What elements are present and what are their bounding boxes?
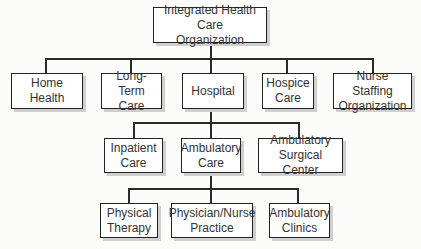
connector-ambulatory-care: [210, 122, 212, 138]
connector-hospice-care: [286, 58, 288, 73]
node-label: Physical: [107, 206, 152, 221]
connector-level3-bus: [128, 188, 298, 190]
connector-level2-bus: [133, 122, 299, 124]
node-label: Physician/Nurse: [169, 206, 256, 221]
node-ambulatory-surgical-center: Ambulatory Surgical Center: [258, 138, 343, 173]
node-label: Hospice: [266, 76, 309, 91]
connector-hospital-down: [210, 108, 212, 123]
node-label: Inpatient: [110, 141, 156, 156]
node-label: Care: [181, 156, 242, 171]
node-inpatient-care: Inpatient Care: [104, 138, 163, 173]
node-label: Practice: [169, 221, 256, 236]
node-label: Home Health: [14, 76, 80, 106]
connector-ambulatory-care-down: [210, 172, 212, 189]
connector-physician-nurse: [210, 188, 212, 203]
node-label: Long-Term: [104, 69, 159, 99]
node-physician-nurse-practice: Physician/Nurse Practice: [171, 203, 253, 238]
node-label: Organization: [156, 33, 264, 48]
node-label: Ambulatory: [269, 206, 330, 221]
node-ambulatory-clinics: Ambulatory Clinics: [269, 203, 330, 238]
connector-level1-bus: [45, 58, 373, 60]
node-label: Ambulatory: [261, 133, 340, 148]
node-label: Integrated Health Care: [156, 3, 264, 33]
node-label: Organization: [336, 99, 409, 114]
node-long-term-care: Long-Term Care: [101, 73, 162, 109]
node-integrated-health-care-organization: Integrated Health Care Organization: [153, 7, 267, 43]
connector-inpatient-care: [133, 122, 135, 138]
node-label: Care: [104, 99, 159, 114]
node-ambulatory-care: Ambulatory Care: [181, 138, 241, 173]
node-nurse-staffing-organization: Nurse Staffing Organization: [333, 73, 412, 109]
node-home-health: Home Health: [11, 73, 83, 109]
connector-hospital: [210, 58, 212, 73]
org-chart: Integrated Health Care Organization Home…: [0, 0, 421, 249]
connector-physical-therapy: [128, 188, 130, 203]
connector-home-health: [45, 58, 47, 73]
node-label: Hospital: [191, 84, 234, 99]
node-physical-therapy: Physical Therapy: [100, 203, 158, 238]
node-label: Clinics: [269, 221, 330, 236]
node-label: Care: [266, 91, 309, 106]
node-label: Ambulatory: [181, 141, 242, 156]
node-hospital: Hospital: [182, 73, 244, 109]
node-label: Care: [110, 156, 156, 171]
node-label: Surgical Center: [261, 148, 340, 178]
node-label: Nurse Staffing: [336, 69, 409, 99]
node-hospice-care: Hospice Care: [262, 73, 314, 109]
connector-ambulatory-clinics: [297, 188, 299, 203]
node-label: Therapy: [107, 221, 152, 236]
